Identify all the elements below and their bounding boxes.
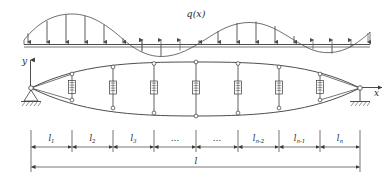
truss-node <box>277 65 281 69</box>
vertical-member <box>151 62 158 115</box>
load-arrows <box>28 15 368 57</box>
truss-node <box>152 62 156 66</box>
svg-text:l3: l3 <box>130 133 137 144</box>
svg-text:l2: l2 <box>89 133 96 144</box>
roller-support-right <box>350 86 370 106</box>
segment-label-main: … <box>213 133 222 143</box>
truss-node <box>318 72 322 76</box>
truss-node <box>194 114 198 118</box>
vertical-member <box>193 60 200 118</box>
vertical-members <box>69 60 324 118</box>
vertical-member <box>235 62 242 115</box>
truss-node <box>111 65 115 69</box>
svg-text:ln: ln <box>337 133 344 144</box>
x-axis-label: x <box>374 88 379 98</box>
load-hangers <box>28 15 351 57</box>
svg-text:ln-2: ln-2 <box>253 133 265 144</box>
svg-text:…: … <box>171 133 180 143</box>
ground-hatch-left <box>22 102 41 107</box>
y-axis-label: y <box>21 56 28 66</box>
segment-label-sub: 3 <box>133 138 137 144</box>
segment-label-sub: 1 <box>51 138 55 144</box>
load-curve <box>24 14 370 56</box>
total-span-label: l <box>195 156 198 166</box>
truss-node <box>277 106 281 110</box>
vertical-member <box>276 65 283 110</box>
truss-node <box>111 106 115 110</box>
truss-node <box>236 62 240 66</box>
beam-load-diagram: q(x) y x <box>0 0 392 187</box>
ground-hatch-right <box>351 102 370 107</box>
segment-label-main: … <box>171 133 180 143</box>
distributed-load-group: q(x) <box>24 8 370 57</box>
diagram-canvas: q(x) y x <box>0 0 392 187</box>
svg-text:ln-1: ln-1 <box>294 133 306 144</box>
vertical-member <box>110 65 117 110</box>
truss-group: y x <box>21 56 382 118</box>
truss-node <box>318 98 322 102</box>
truss-node <box>70 98 74 102</box>
load-label: q(x) <box>187 8 206 19</box>
dimension-group: l1 l2 l3 … … ln-2 ln-1 ln <box>31 130 360 172</box>
segment-label-sub: n <box>340 138 344 144</box>
segment-label-sub: 2 <box>91 138 96 144</box>
truss-node <box>70 72 74 76</box>
truss-node <box>236 111 240 115</box>
truss-node <box>152 111 156 115</box>
support-pin-node <box>358 86 363 91</box>
vertical-member <box>317 72 324 102</box>
vertical-member <box>69 72 76 102</box>
pinned-support-left <box>21 86 41 106</box>
truss-node <box>194 60 198 64</box>
segment-label-sub: n-2 <box>255 138 264 144</box>
svg-text:l1: l1 <box>48 133 54 144</box>
svg-text:…: … <box>213 133 222 143</box>
segment-label-sub: n-1 <box>296 138 305 144</box>
